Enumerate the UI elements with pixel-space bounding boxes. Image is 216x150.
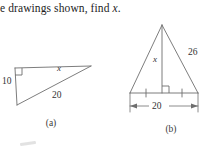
caption-figure-b: (b): [151, 124, 191, 134]
right-angle-marker-icon: [162, 86, 169, 93]
label-altitude-x: x: [153, 54, 157, 64]
segment-top: [15, 66, 91, 68]
segment-left-leg: [15, 68, 17, 105]
caption-figure-a: (a): [31, 118, 71, 128]
right-angle-marker-icon: [15, 68, 22, 75]
figure-a: 10 20 x (a): [0, 38, 108, 148]
label-hypotenuse: 20: [52, 90, 62, 100]
prompt-text-before: e drawings shown, find: [0, 2, 113, 14]
label-unknown-x: x: [57, 63, 61, 73]
arrowhead-right-icon: [191, 104, 198, 109]
problem-prompt: e drawings shown, find x.: [0, 1, 216, 17]
prompt-text-after: .: [118, 2, 121, 14]
label-vertical-leg: 10: [2, 76, 12, 86]
label-slant-side: 26: [188, 47, 198, 57]
figure-b: 26 x 20 (b): [108, 18, 216, 148]
figure-page: e drawings shown, find x. 10 20 x (a): [0, 0, 216, 150]
segment-left-side: [130, 25, 162, 93]
label-base: 20: [152, 101, 162, 111]
arrowhead-left-icon: [130, 104, 137, 109]
segment-right-side: [162, 25, 198, 93]
